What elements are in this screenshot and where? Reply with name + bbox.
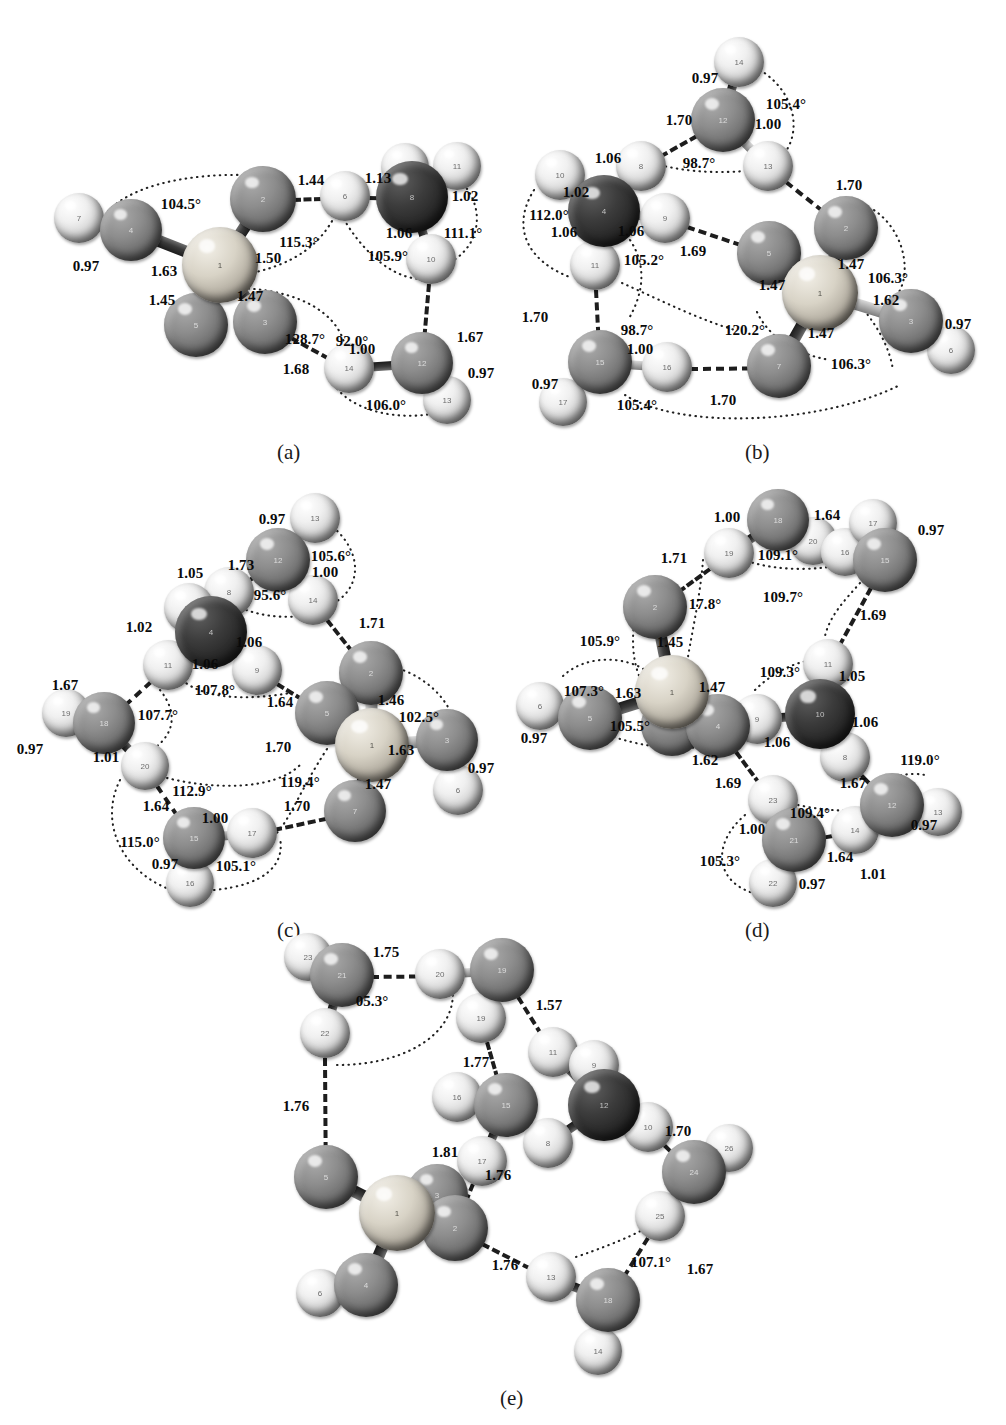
bond-angle-label: 17.8° (689, 596, 722, 613)
atom-p-1: 1 (359, 1175, 435, 1251)
bond-length-label: 1.06 (551, 224, 578, 241)
bond-length-label: 1.75 (373, 944, 400, 961)
atom-index-label: 2 (453, 1225, 457, 1233)
atom-index-label: 14 (735, 59, 744, 67)
bond-length-label: 1.00 (755, 116, 782, 133)
atom-index-label: 5 (194, 322, 198, 330)
atom-o-2: 2 (230, 166, 296, 232)
bond-length-label: 1.70 (836, 177, 863, 194)
atom-index-label: 23 (304, 954, 313, 962)
atom-index-label: 10 (816, 711, 825, 719)
atom-o-18: 18 (73, 692, 135, 754)
bond-length-label: 1.50 (255, 250, 282, 267)
bond-length-label: 1.44 (298, 172, 325, 189)
atom-index-label: 4 (602, 208, 606, 216)
bond-length-label: 1.57 (536, 997, 563, 1014)
atom-index-label: 7 (77, 215, 81, 223)
bond-length-label: 1.62 (692, 752, 719, 769)
atom-o-24: 24 (662, 1140, 726, 1204)
bond-angle-label: 119.4° (280, 774, 320, 791)
molecular-structure-figure: 7412536891110121413104.5°115.3°0.971.631… (0, 0, 1006, 1425)
atom-index-label: 11 (164, 662, 172, 670)
bond-length-label: 0.97 (468, 760, 495, 777)
atom-o-12: 12 (246, 528, 310, 592)
atom-h-6: 6 (516, 682, 564, 730)
atom-index-label: 16 (453, 1094, 462, 1102)
atom-o-15: 15 (474, 1073, 538, 1137)
atom-index-label: 3 (909, 318, 913, 326)
atom-index-label: 10 (556, 172, 565, 180)
atom-o-5: 5 (294, 1145, 358, 1209)
bond-length-label: 0.97 (468, 365, 495, 382)
atom-o-19o: 19 (470, 938, 534, 1002)
atom-index-label: 11 (824, 661, 832, 669)
bond-length-label: 1.01 (860, 866, 887, 883)
atom-h-17: 17 (227, 808, 277, 858)
atom-index-label: 5 (767, 250, 771, 258)
bond-length-label: 1.45 (657, 634, 684, 651)
bond-angle-label: 119.0° (900, 752, 940, 769)
atom-h-20: 20 (121, 742, 169, 790)
atom-index-label: 11 (591, 262, 599, 270)
bond-angle-label: 112.9° (172, 783, 212, 800)
bond-length-label: 1.00 (349, 341, 376, 358)
bond-length-label: 0.97 (799, 876, 826, 893)
atom-index-label: 23 (769, 797, 778, 805)
atom-o-15: 15 (853, 528, 917, 592)
atom-index-label: 7 (777, 363, 781, 371)
atom-index-label: 24 (690, 1169, 699, 1177)
bond-length-label: 1.00 (714, 509, 741, 526)
bond-length-label: 1.69 (680, 243, 707, 260)
bond-length-label: 1.64 (827, 849, 854, 866)
bond-length-label: 1.00 (312, 564, 339, 581)
bond-angle-label: 107.8° (195, 682, 235, 699)
atom-index-label: 12 (274, 557, 283, 565)
bond-length-label: 1.45 (149, 292, 176, 309)
hydrogen-bond (371, 974, 417, 978)
bond-length-label: 1.06 (236, 634, 263, 651)
bond-angle-label: 105.2° (624, 252, 664, 269)
atom-h-14: 14 (574, 1327, 622, 1375)
atom-index-label: 6 (456, 787, 460, 795)
atom-index-label: 7 (353, 808, 357, 816)
atom-index-label: 26 (725, 1145, 734, 1153)
atom-n-10N: 10 (785, 679, 855, 749)
bond-length-label: 1.63 (615, 685, 642, 702)
atom-index-label: 9 (663, 215, 667, 223)
bond-length-label: 0.97 (17, 741, 44, 758)
atom-index-label: 1 (670, 689, 674, 697)
bond-length-label: 1.02 (452, 188, 479, 205)
atom-index-label: 4 (716, 723, 720, 731)
atom-h-9: 9 (640, 193, 690, 243)
atom-index-label: 5 (324, 1174, 328, 1182)
atom-index-label: 17 (248, 830, 257, 838)
bond-length-label: 1.63 (388, 742, 415, 759)
bond-length-label: 1.05 (177, 565, 204, 582)
atom-index-label: 2 (653, 604, 657, 612)
bond-length-label: 1.06 (595, 150, 622, 167)
bond-length-label: 0.97 (918, 522, 945, 539)
atom-index-label: 17 (559, 399, 568, 407)
atom-o-7: 7 (747, 334, 811, 398)
atom-index-label: 4 (364, 1282, 368, 1290)
bond-length-label: 1.64 (267, 694, 294, 711)
bond-length-label: 1.47 (699, 679, 726, 696)
bond-length-label: 0.97 (911, 817, 938, 834)
atom-h-19: 19 (704, 528, 754, 578)
bond-angle-label: 128.7° (285, 331, 325, 348)
atom-o-2: 2 (623, 575, 687, 639)
bond-angle-label: 105.5° (610, 718, 650, 735)
atom-h-14: 14 (714, 37, 764, 87)
bond-length-label: 1.06 (852, 714, 879, 731)
bond-length-label: 1.70 (522, 309, 549, 326)
atom-index-label: 13 (547, 1274, 556, 1282)
atom-index-label: 6 (949, 347, 953, 355)
bond-angle-label: 115.0° (120, 834, 160, 851)
atom-index-label: 12 (719, 117, 728, 125)
bond-angle-label: 107.1° (631, 1254, 671, 1271)
bond-angle-label: 106.3° (868, 270, 908, 287)
bond-length-label: 1.06 (618, 223, 645, 240)
bond-angle-label: 104.5° (161, 196, 201, 213)
bond-length-label: 1.68 (283, 361, 310, 378)
bond-length-label: 1.70 (265, 739, 292, 756)
